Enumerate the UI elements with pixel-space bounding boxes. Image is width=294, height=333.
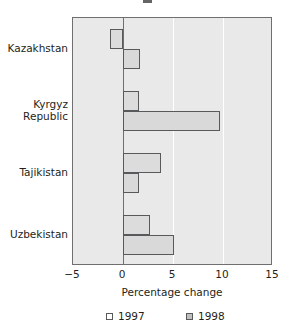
legend-label-1997: 1997 xyxy=(118,310,145,322)
bar-kyrgyz-republic-1998 xyxy=(123,111,220,131)
gridline-10 xyxy=(223,18,224,264)
gridline-5 xyxy=(173,18,174,264)
bar-tajikistan-1997 xyxy=(123,153,161,173)
bar-uzbekistan-1998 xyxy=(123,235,174,255)
bar-tajikistan-1998 xyxy=(123,173,139,193)
category-label-kyrgyz-republic: KyrgyzRepublic xyxy=(0,98,68,122)
category-label-line: Kazakhstan xyxy=(0,42,68,54)
x-axis-label: Percentage change xyxy=(72,286,272,298)
category-label-line: Kyrgyz xyxy=(0,98,68,110)
category-label-uzbekistan: Uzbekistan xyxy=(0,228,68,240)
legend-swatch-1998-icon xyxy=(186,313,193,320)
category-label-kazakhstan: Kazakhstan xyxy=(0,42,68,54)
x-tick-label-0: 0 xyxy=(107,268,137,280)
category-label-line: Uzbekistan xyxy=(0,228,68,240)
bar-kazakhstan-1997 xyxy=(110,29,123,49)
legend-item-1997[interactable]: 1997 xyxy=(106,310,145,322)
bar-uzbekistan-1997 xyxy=(123,215,150,235)
legend-swatch-1997-icon xyxy=(106,313,113,320)
x-tick-label--5: −5 xyxy=(57,268,87,280)
bar-chart-figure: Percentage change 1997 1998 KazakhstanKy… xyxy=(0,0,294,333)
x-tick-label-5: 5 xyxy=(157,268,187,280)
category-label-line: Republic xyxy=(0,110,68,122)
legend-item-1998[interactable]: 1998 xyxy=(186,310,225,322)
category-label-tajikistan: Tajikistan xyxy=(0,166,68,178)
chart-legend: 1997 1998 xyxy=(72,310,272,326)
bar-kazakhstan-1998 xyxy=(123,49,140,69)
legend-label-1998: 1998 xyxy=(198,310,225,322)
x-tick-label-10: 10 xyxy=(207,268,237,280)
category-label-line: Tajikistan xyxy=(0,166,68,178)
bar-kyrgyz-republic-1997 xyxy=(123,91,139,111)
plot-area xyxy=(72,17,272,265)
x-tick-label-15: 15 xyxy=(257,268,287,280)
